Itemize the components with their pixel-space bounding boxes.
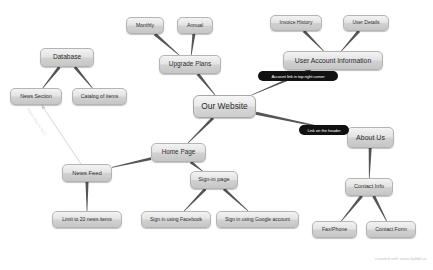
edge-homepage-to-signinpage — [190, 161, 203, 171]
edge-monthly-to-upgrade — [154, 33, 179, 55]
node-google[interactable]: Sign in using Google account — [216, 211, 299, 228]
node-database[interactable]: Database — [40, 48, 94, 67]
callout-account-link[interactable]: Account link in top right corner — [258, 71, 338, 81]
node-contactform[interactable]: Contact Form — [366, 221, 416, 238]
node-annual[interactable]: Annual — [177, 17, 213, 34]
node-upgrade[interactable]: Upgrade Plans — [159, 55, 221, 74]
edge-newsfeed-to-limit20 — [86, 182, 89, 211]
node-catalog[interactable]: Catalog of items — [72, 88, 127, 105]
edge-database-to-newssection — [42, 66, 60, 88]
edge-userdetails-to-useraccount — [341, 30, 360, 51]
node-aboutus[interactable]: About Us — [347, 127, 394, 148]
edge-contactinfo-to-contactform — [372, 195, 387, 221]
node-faxphone[interactable]: Fax/Phone — [312, 221, 357, 238]
edge-ourwebsite-to-homepage — [188, 117, 214, 143]
node-limit20[interactable]: Limit to 20 news items — [52, 211, 122, 228]
edge-signinpage-to-facebook — [184, 188, 206, 211]
edge-invoice-to-useraccount — [303, 30, 324, 51]
edge-upgrade-to-ourwebsite — [197, 73, 216, 95]
node-useraccount[interactable]: User Account Information — [283, 51, 383, 70]
node-userdetails[interactable]: User Details — [343, 15, 389, 31]
edge-annual-to-upgrade — [191, 34, 196, 55]
edge-database-to-catalog — [74, 66, 93, 88]
node-signinpage[interactable]: Sign-in page — [190, 171, 238, 189]
watermark: created with www.bubbl.us — [375, 256, 427, 261]
arrowhead-newsfeed-to-newssection — [42, 105, 46, 109]
callout-header-link[interactable]: Link on the header — [299, 125, 349, 135]
node-newssection[interactable]: News Section — [10, 88, 62, 105]
node-contactinfo[interactable]: Contact Info — [345, 178, 393, 196]
node-monthly[interactable]: Monthly — [126, 17, 164, 34]
node-newsfeed[interactable]: News Feed — [62, 164, 112, 182]
edge-label-link-to-the-news: Link to the news — [26, 107, 48, 136]
mindmap-canvas: MonthlyAnnualInvoice HistoryUser Details… — [0, 0, 433, 270]
edge-aboutus-to-contactinfo — [369, 148, 372, 178]
edge-homepage-to-newsfeed — [112, 157, 151, 168]
node-ourwebsite[interactable]: Our Website — [193, 95, 256, 118]
node-invoice[interactable]: Invoice History — [270, 15, 322, 31]
edge-signinpage-to-google — [223, 188, 248, 211]
edge-contactinfo-to-faxphone — [341, 195, 363, 221]
node-homepage[interactable]: Home Page — [151, 143, 206, 162]
node-facebook[interactable]: Sign in using Facebook — [141, 211, 211, 228]
edge-newsfeed-to-newssection — [42, 105, 81, 164]
